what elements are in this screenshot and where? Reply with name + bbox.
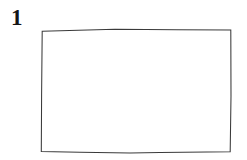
figure-container: 1 <box>0 0 247 160</box>
hand-drawn-rectangle <box>41 29 231 153</box>
figure-drawing-canvas <box>0 0 247 160</box>
